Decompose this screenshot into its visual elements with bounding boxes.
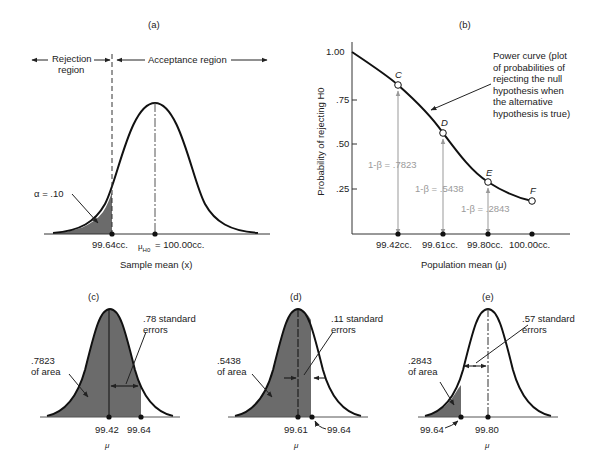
xtick-99-80: 99.80cc. [467,239,503,250]
point-d [440,130,447,137]
power-label-d: 1-β = .5438 [415,183,464,194]
panel-d-crit-value: 99.64 [327,424,351,435]
point-e [485,179,492,186]
xtick-100-00: 100.00cc. [509,239,550,250]
ytick-0-75: .75 [336,94,349,105]
panel-c-mu-symbol: μ [105,440,109,451]
panel-c-se-label: .78 standard [143,313,196,324]
ytick-1-00: 1.00 [326,46,345,57]
panel-c-label: (c) [88,291,99,302]
panel-b-ylabel: Probability of rejecting H0 [315,72,326,212]
power-label-c: 1-β = .7823 [368,159,417,170]
panel-d-area-label-2: of area [217,366,247,377]
panel-e-area-label: .2843 [408,355,432,366]
panel-e-area-label-2: of area [408,366,438,377]
panel-c-se-label-2: errors [143,324,168,335]
mu-h0-value: = 100.00cc. [155,239,204,250]
panel-b-xlabel: Population mean (μ) [421,259,507,270]
rejection-region-label: Rejection [52,53,92,64]
panel-e-se-label: .57 standard [522,313,575,324]
xtick-99-42: 99.42cc. [376,239,412,250]
point-c-label: C [395,69,402,80]
panel-d-mu-value: 99.61 [284,424,308,435]
ytick-0-50: .50 [336,138,349,149]
panel-e-mu-value: 99.80 [475,424,499,435]
point-c [395,82,402,89]
panel-d-label: (d) [290,291,302,302]
panel-d-se-label-2: errors [331,324,356,335]
panel-c-mu-value: 99.42 [95,424,119,435]
critical-value-label: 99.64cc. [92,239,128,250]
panel-e-label: (e) [482,291,494,302]
panel-d-se-label: .11 standard [331,313,383,324]
power-label-e: 1-β = .2843 [461,203,510,214]
panel-a [32,54,270,237]
acceptance-region-label: Acceptance region [148,54,227,65]
panel-e-mu-symbol: μ [485,440,489,451]
panel-b-label: (b) [459,19,471,30]
panel-c-area-label: .7823 [31,355,55,366]
panel-d-mu-symbol: μ [294,440,298,451]
panel-e-crit-value: 99.64 [420,424,444,435]
panel-e-se-label-2: errors [522,324,547,335]
rejection-region-label-2: region [58,64,84,75]
xtick-99-61: 99.61cc. [422,239,458,250]
point-d-label: D [441,117,448,128]
point-f-label: F [530,185,536,196]
ytick-0-25: .25 [336,183,349,194]
mu-h0-symbol: μH0 [138,241,150,256]
point-e-label: E [486,167,492,178]
alpha-label: α = .10 [34,188,64,199]
panel-c-area-label-2: of area [31,366,61,377]
power-curve-annotation: Power curve (plot of probabilities of re… [493,50,570,119]
point-f [529,198,536,205]
panel-a-xlabel: Sample mean (x) [120,259,192,270]
panel-d-area-label: .5438 [217,355,241,366]
panel-c-crit-value: 99.64 [127,424,151,435]
panel-a-label: (a) [148,19,160,30]
